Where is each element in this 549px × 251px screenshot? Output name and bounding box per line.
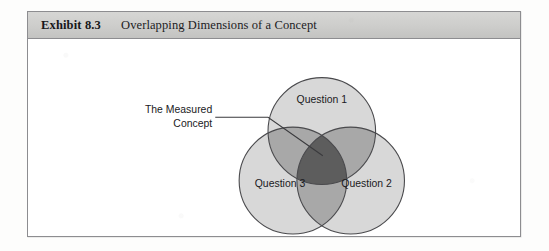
callout-label-line2: Concept [173, 118, 212, 129]
venn-diagram: The Measured Concept Question 1 Question… [28, 40, 520, 236]
callout-label-line1: The Measured [145, 104, 213, 115]
circle-label-question-1: Question 1 [297, 94, 348, 105]
exhibit-header: Exhibit 8.3 Overlapping Dimensions of a … [28, 12, 520, 39]
exhibit-page: Exhibit 8.3 Overlapping Dimensions of a … [0, 0, 549, 251]
exhibit-frame: Exhibit 8.3 Overlapping Dimensions of a … [27, 11, 521, 237]
circle-label-question-2: Question 2 [341, 178, 392, 189]
circle-label-question-3: Question 3 [255, 178, 306, 189]
exhibit-title: Overlapping Dimensions of a Concept [121, 18, 317, 33]
exhibit-number: Exhibit 8.3 [41, 18, 101, 33]
exhibit-body: The Measured Concept Question 1 Question… [28, 40, 520, 236]
